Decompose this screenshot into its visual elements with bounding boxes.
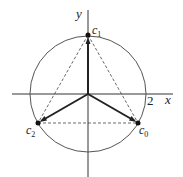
label-c0: c0 <box>139 123 148 139</box>
label-c1: c1 <box>92 23 101 39</box>
vector-c0 <box>88 94 134 121</box>
tick-label-2: 2 <box>147 93 154 108</box>
x-axis-label: x <box>164 92 171 107</box>
point-c2 <box>36 121 41 126</box>
diagram-canvas: y x 2 c1 c0 c2 <box>0 0 183 177</box>
y-axis-label: y <box>74 6 82 21</box>
vector-c2 <box>42 94 88 121</box>
arrowhead-c1-icon <box>86 37 91 44</box>
label-c2: c2 <box>26 123 35 139</box>
dashed-edge-c1-c0 <box>88 35 138 123</box>
point-c1 <box>86 33 91 38</box>
dashed-edge-c1-c2 <box>38 35 88 123</box>
